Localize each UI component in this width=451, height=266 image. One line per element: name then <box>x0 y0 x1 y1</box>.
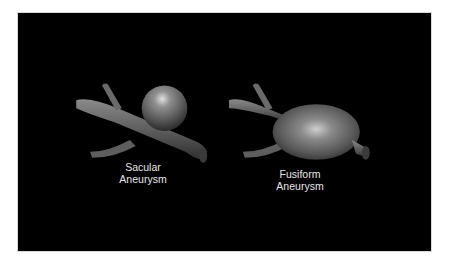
saccular-vessel <box>76 84 207 163</box>
fusiform-label-line2: Aneurysm <box>255 180 345 192</box>
saccular-label: Sacular Aneurysm <box>98 161 188 185</box>
aneurysm-illustration <box>18 13 431 251</box>
saccular-bulge <box>142 85 188 131</box>
saccular-label-line1: Sacular <box>98 161 188 173</box>
fusiform-label-line1: Fusiform <box>255 168 345 180</box>
fusiform-bulge <box>273 104 360 160</box>
fusiform-vessel <box>229 84 370 160</box>
diagram-panel: Sacular Aneurysm Fusiform Aneurysm <box>17 12 432 252</box>
fusiform-label: Fusiform Aneurysm <box>255 168 345 192</box>
saccular-label-line2: Aneurysm <box>98 173 188 185</box>
